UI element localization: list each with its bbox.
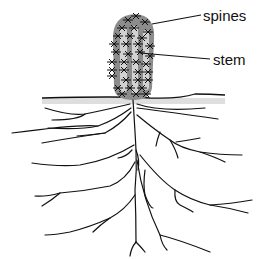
stem-label: stem	[213, 52, 246, 67]
root-system	[12, 100, 252, 256]
spines-label: spines	[203, 8, 246, 23]
cactus-diagram	[0, 0, 257, 259]
spines-leader-line	[152, 15, 201, 24]
